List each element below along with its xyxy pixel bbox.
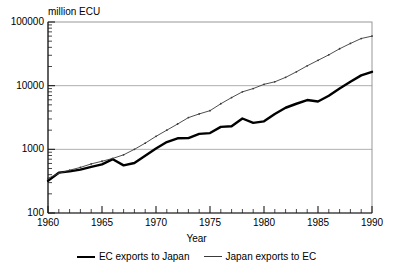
series-marker: [101, 160, 103, 162]
series-marker: [198, 113, 200, 115]
x-axis-tick-label: 1980: [244, 217, 284, 228]
gridlines: [48, 86, 372, 150]
series-marker: [263, 83, 265, 85]
series-marker: [285, 76, 287, 78]
series-marker: [80, 167, 82, 169]
y-axis-tick-label: 100000: [0, 16, 44, 27]
legend-item-ec-exports: EC exports to Japan: [77, 251, 190, 262]
series-marker: [155, 135, 157, 137]
series-marker: [231, 97, 233, 99]
series-marker: [252, 88, 254, 90]
series-marker: [58, 172, 60, 174]
series-marker: [350, 43, 352, 45]
legend-label-japan-exports: Japan exports to EC: [226, 251, 317, 262]
series-marker: [306, 65, 308, 67]
axis-ticks: [48, 22, 372, 213]
series-marker: [296, 71, 298, 73]
x-axis-tick-label: 1960: [28, 217, 68, 228]
y-axis-tick-label: 10000: [0, 80, 44, 91]
chart-container: million ECU 100100010000100000 196019651…: [0, 0, 393, 274]
legend-swatch-thick-line: [77, 256, 95, 258]
series-marker: [90, 163, 92, 165]
series-line-0: [48, 72, 372, 181]
x-axis-tick-label: 1975: [190, 217, 230, 228]
series-marker: [123, 154, 125, 156]
plot-frame: [48, 22, 372, 213]
series-marker: [188, 117, 190, 119]
series-marker: [112, 158, 114, 160]
x-axis-tick-label: 1985: [298, 217, 338, 228]
legend-swatch-thin-line: [204, 256, 222, 257]
x-axis-tick-label: 1970: [136, 217, 176, 228]
legend-item-japan-exports: Japan exports to EC: [204, 251, 317, 262]
series-marker: [166, 129, 168, 131]
series-line-1: [48, 36, 372, 178]
series-marker: [47, 177, 49, 179]
series-marker: [274, 81, 276, 83]
series-marker: [317, 59, 319, 61]
legend-label-ec-exports: EC exports to Japan: [99, 251, 190, 262]
series-marker: [134, 148, 136, 150]
series-marker: [209, 110, 211, 112]
y-axis-tick-label: 1000: [0, 143, 44, 154]
series-marker: [69, 169, 71, 171]
data-series: [47, 35, 373, 181]
series-marker: [220, 103, 222, 105]
chart-legend: EC exports to Japan Japan exports to EC: [0, 251, 393, 262]
x-axis-title: Year: [0, 233, 393, 244]
series-marker: [360, 38, 362, 40]
x-axis-tick-label: 1965: [82, 217, 122, 228]
series-marker: [328, 54, 330, 56]
series-marker: [177, 123, 179, 125]
series-marker: [242, 91, 244, 93]
series-marker: [144, 142, 146, 144]
series-marker: [371, 35, 373, 37]
chart-unit-title: million ECU: [48, 6, 100, 17]
x-axis-tick-label: 1990: [352, 217, 392, 228]
series-marker: [339, 48, 341, 50]
